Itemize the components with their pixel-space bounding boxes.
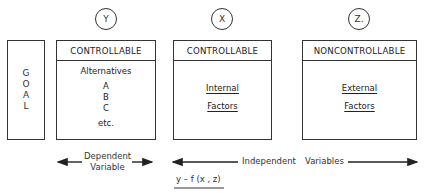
internal-label: Internal [174,83,271,93]
goal-letter: O [22,79,29,90]
dependent-label-line1: Dependent [84,151,131,162]
alternatives-etc: etc. [57,118,155,128]
controllable-alternatives-box: CONTROLLABLE Alternatives A B C etc. [56,40,156,140]
dependent-variable-label: Dependent Variable [84,151,131,173]
variables-label: Variables [305,156,344,166]
goal-letter: L [23,101,28,112]
box-header: NONCONTROLLABLE [303,41,416,61]
noncontrollable-external-box: NONCONTROLLABLE External Factors [302,40,417,140]
alternative-item: A [57,81,155,92]
variable-circle-x: X [211,8,233,30]
circle-label-z: Z. [354,14,363,24]
variable-circle-y: Y [95,8,117,30]
goal-letter: G [23,68,30,79]
goal-letter: A [23,90,29,101]
external-label: External [303,83,416,93]
alternative-item: C [57,103,155,114]
circle-label-x: X [219,14,225,24]
factors-label: Factors [174,101,271,111]
independent-label: Independent [242,156,296,166]
formula: y – f (x , z) [176,174,221,184]
controllable-internal-box: CONTROLLABLE Internal Factors [173,40,272,140]
dependent-label-line2: Variable [84,162,131,173]
box-header: CONTROLLABLE [174,41,271,61]
alternatives-title: Alternatives [57,66,155,76]
box-header: CONTROLLABLE [57,41,155,61]
factors-label: Factors [303,101,416,111]
goal-box: G O A L [7,40,45,140]
circle-label-y: Y [103,14,109,24]
alternative-item: B [57,92,155,103]
variable-circle-z: Z. [348,8,370,30]
